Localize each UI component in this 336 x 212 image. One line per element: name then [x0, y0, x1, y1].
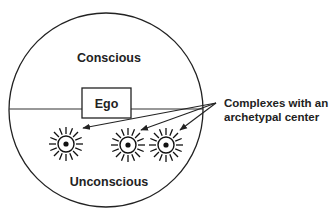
psyche-diagram: Conscious Ego Complexes with an archetyp… [0, 0, 336, 212]
complexes-callout-label-line1: Complexes with an [224, 97, 328, 109]
archetypal-complex-icon [111, 128, 145, 162]
ego-label: Ego [95, 97, 119, 111]
callout-arrow-3 [180, 103, 216, 130]
archetypal-complex-icon [149, 128, 183, 162]
conscious-label: Conscious [77, 51, 141, 65]
archetypal-complex-icon [49, 127, 83, 161]
complexes-group [49, 127, 183, 162]
callout-arrow-2 [141, 103, 216, 130]
unconscious-label: Unconscious [70, 175, 149, 189]
complexes-callout-label-line2: archetypal center [224, 111, 320, 123]
